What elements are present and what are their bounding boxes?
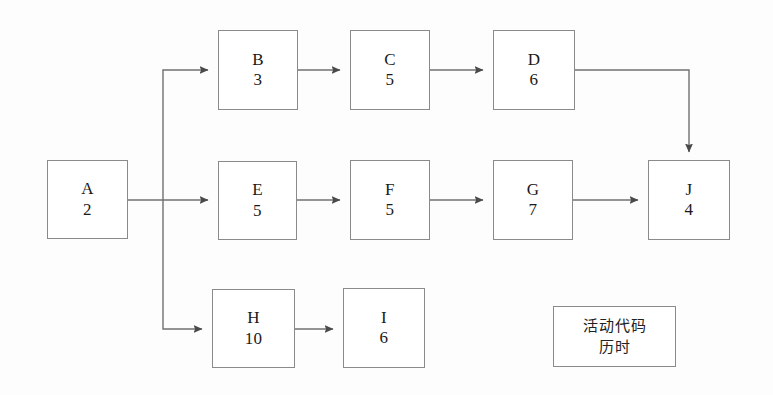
- node-a[interactable]: A 2: [47, 160, 128, 239]
- node-g-code: G: [527, 180, 540, 200]
- node-f-code: F: [385, 180, 395, 200]
- legend-line-duration: 历时: [599, 337, 631, 357]
- network-diagram-canvas: A 2 B 3 C 5 D 6 E 5 F 5 G 7 J 4 H 10 I 6…: [0, 0, 773, 395]
- node-j-code: J: [686, 180, 693, 200]
- node-a-duration: 2: [83, 200, 92, 220]
- node-e[interactable]: E 5: [218, 161, 297, 240]
- node-j-duration: 4: [685, 200, 694, 220]
- node-d[interactable]: D 6: [493, 30, 575, 110]
- node-f[interactable]: F 5: [350, 160, 430, 240]
- node-i[interactable]: I 6: [343, 288, 425, 368]
- legend-box: 活动代码 历时: [553, 306, 676, 367]
- node-j[interactable]: J 4: [648, 160, 730, 240]
- edge-a-to-h: [163, 200, 202, 329]
- node-h[interactable]: H 10: [212, 289, 295, 368]
- node-h-duration: 10: [245, 329, 263, 349]
- node-e-duration: 5: [253, 201, 262, 221]
- edge-a-to-b: [128, 70, 208, 200]
- node-d-duration: 6: [530, 70, 539, 90]
- node-g[interactable]: G 7: [493, 160, 573, 240]
- node-b-code: B: [252, 50, 264, 70]
- legend-line-activity-code: 活动代码: [583, 316, 647, 336]
- node-d-code: D: [528, 50, 541, 70]
- node-a-code: A: [81, 179, 94, 199]
- node-c[interactable]: C 5: [350, 30, 430, 110]
- node-g-duration: 7: [529, 200, 538, 220]
- node-i-code: I: [381, 308, 387, 328]
- node-c-code: C: [384, 50, 396, 70]
- node-e-code: E: [252, 180, 263, 200]
- node-f-duration: 5: [386, 200, 395, 220]
- node-c-duration: 5: [386, 70, 395, 90]
- edge-d-to-j: [575, 70, 689, 152]
- node-h-code: H: [247, 308, 260, 328]
- node-b-duration: 3: [254, 70, 263, 90]
- node-b[interactable]: B 3: [218, 30, 298, 110]
- node-i-duration: 6: [380, 328, 389, 348]
